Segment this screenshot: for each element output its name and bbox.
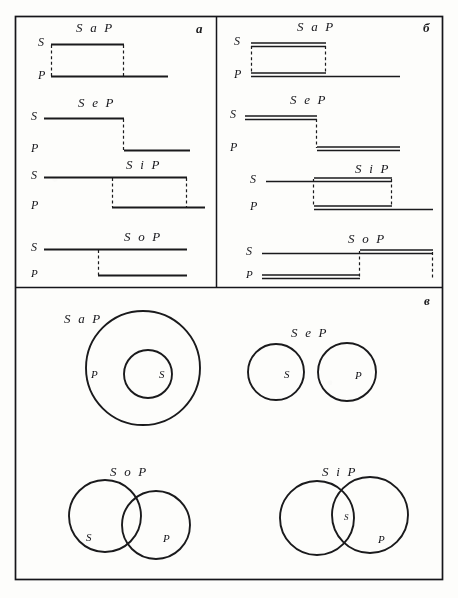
panel-a-sip-subject-label: S: [31, 168, 38, 183]
panel-b-sep-diagram: [245, 116, 400, 151]
panel-b-sip-title: S i P: [355, 161, 391, 177]
panel-a-sap-title: S a P: [76, 20, 114, 36]
panel-a-sop-title: S o P: [124, 229, 162, 245]
panel-a-sep-predicate-label: P: [31, 141, 39, 156]
logic-figure: а б в S a P S e P S i P S o P S P S P S …: [0, 0, 458, 598]
panel-b-sip-diagram: [266, 178, 433, 210]
panel-a-sap-predicate-label: P: [38, 68, 46, 83]
panel-a-sep-diagram: [44, 119, 190, 151]
panel-b-sip-subject-label: S: [250, 172, 257, 187]
panel-v-sip-overlap-label: S: [344, 512, 350, 522]
panel-b-sap-diagram: [251, 43, 400, 77]
panel-b-sop-title: S o P: [348, 231, 386, 247]
circle-P-outer: [86, 311, 200, 425]
panel-v-sop-left-label: S: [86, 531, 93, 543]
panel-letter-b: б: [423, 20, 431, 36]
figure-canvas: [0, 0, 458, 598]
panel-v-sap-title: S a P: [64, 311, 102, 327]
panel-a-sep-title: S e P: [78, 95, 116, 111]
circle-S: [280, 481, 354, 555]
panel-letter-v: в: [424, 293, 431, 309]
panel-b-sep-title: S e P: [290, 92, 328, 108]
panel-v-sop-circles: [69, 480, 190, 559]
circle-S: [248, 344, 304, 400]
panel-a-sip-diagram: [44, 178, 205, 208]
panel-b-sap-predicate-label: P: [234, 67, 242, 82]
panel-a-sep-subject-label: S: [31, 109, 38, 124]
panel-a-sap-subject-label: S: [38, 35, 45, 50]
panel-letter-a: а: [196, 21, 204, 37]
panel-v-sop-right-label: P: [163, 532, 171, 544]
panel-v-sap-circles: [86, 311, 200, 425]
panel-b-sop-subject-label: S: [246, 244, 253, 259]
panel-b-sap-title: S a P: [297, 19, 335, 35]
circle-S: [69, 480, 141, 552]
circle-P: [122, 491, 190, 559]
panel-v-sap-inner-label: S: [159, 368, 166, 380]
panel-a-sap-diagram: [51, 45, 168, 77]
panel-b-sep-subject-label: S: [230, 107, 237, 122]
panel-b-sap-subject-label: S: [234, 34, 241, 49]
panel-v-sip-title: S i P: [322, 464, 358, 480]
panel-a-sop-predicate-label: P: [31, 267, 39, 279]
circle-P: [318, 343, 376, 401]
panel-v-sep-right-label: P: [355, 369, 363, 381]
panel-v-sep-title: S e P: [291, 325, 329, 341]
panel-b-sop-diagram: [262, 250, 433, 279]
panel-v-sep-left-label: S: [284, 368, 291, 380]
panel-v-sap-outer-label: P: [91, 368, 99, 380]
panel-a-sop-diagram: [44, 250, 187, 276]
panel-b-sop-predicate-label: P: [246, 268, 254, 280]
panel-b-sep-predicate-label: P: [230, 140, 238, 155]
panel-b-sip-predicate-label: P: [250, 199, 258, 214]
panel-a-sip-predicate-label: P: [31, 198, 39, 213]
panel-a-sip-title: S i P: [126, 157, 162, 173]
panel-v-sop-title: S o P: [110, 464, 148, 480]
panel-a-sop-subject-label: S: [31, 240, 38, 255]
panel-v-sip-right-label: P: [378, 533, 386, 545]
